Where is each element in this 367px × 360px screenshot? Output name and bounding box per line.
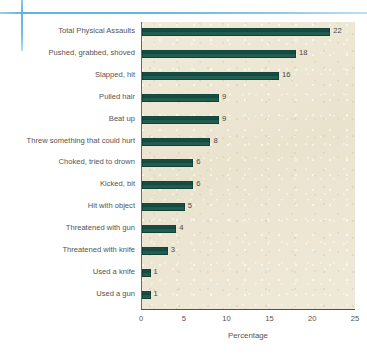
x-axis-line xyxy=(141,309,355,310)
bar-category-label: Hit with object xyxy=(88,201,135,211)
bar xyxy=(142,269,151,277)
bar-row: Total Physical Assaults22 xyxy=(0,22,367,44)
bar-value-label: 5 xyxy=(188,201,192,211)
bar-row: Threw something that could hurt8 xyxy=(0,132,367,154)
x-tick-label: 20 xyxy=(302,314,322,324)
bar xyxy=(142,291,151,299)
bar xyxy=(142,138,210,146)
bar xyxy=(142,72,279,80)
bar-row: Slapped, hit16 xyxy=(0,66,367,88)
bar-value-label: 3 xyxy=(171,245,175,255)
bar-category-label: Total Physical Assaults xyxy=(58,26,135,36)
bar-value-label: 6 xyxy=(196,179,200,189)
bar xyxy=(142,50,296,58)
bar-category-label: Threatened with knife xyxy=(62,245,135,255)
bar-value-label: 22 xyxy=(333,26,341,36)
bar-category-label: Kicked, bit xyxy=(100,179,135,189)
bar-row: Used a gun1 xyxy=(0,285,367,307)
x-tick-label: 10 xyxy=(217,314,237,324)
bar-value-label: 8 xyxy=(213,136,217,146)
bar xyxy=(142,181,193,189)
bar-row: Threatened with knife3 xyxy=(0,241,367,263)
bar xyxy=(142,159,193,167)
x-tick-label: 0 xyxy=(131,314,151,324)
bar xyxy=(142,203,185,211)
x-axis-title: Percentage xyxy=(141,331,355,341)
bar-category-label: Choked, tried to drown xyxy=(59,157,135,167)
bar-value-label: 16 xyxy=(282,70,290,80)
bar-row: Choked, tried to drown6 xyxy=(0,153,367,175)
bar-value-label: 18 xyxy=(299,48,307,58)
bar xyxy=(142,225,176,233)
bar-row: Hit with object5 xyxy=(0,197,367,219)
x-tick-label: 25 xyxy=(345,314,365,324)
bar-value-label: 1 xyxy=(154,267,158,277)
bar-category-label: Pulled hair xyxy=(99,92,135,102)
bar-category-label: Slapped, hit xyxy=(95,70,135,80)
decorative-horizontal-rule xyxy=(0,12,367,14)
bar-category-label: Threw something that could hurt xyxy=(27,136,135,146)
x-tick-label: 15 xyxy=(259,314,279,324)
bar-category-label: Used a knife xyxy=(93,267,135,277)
bar xyxy=(142,116,219,124)
bar-row: Pulled hair9 xyxy=(0,88,367,110)
bar-value-label: 9 xyxy=(222,114,226,124)
bar-category-label: Beat up xyxy=(109,114,135,124)
bar-row: Used a knife1 xyxy=(0,263,367,285)
bar-category-label: Used a gun xyxy=(96,289,135,299)
x-tick-label: 5 xyxy=(174,314,194,324)
bar xyxy=(142,94,219,102)
bar-category-label: Pushed, grabbed, shoved xyxy=(48,48,135,58)
bar-category-label: Threatened with gun xyxy=(66,223,135,233)
bar-value-label: 1 xyxy=(154,289,158,299)
bar xyxy=(142,28,330,36)
bar-value-label: 9 xyxy=(222,92,226,102)
bar xyxy=(142,247,168,255)
bar-row: Pushed, grabbed, shoved18 xyxy=(0,44,367,66)
bar-value-label: 4 xyxy=(179,223,183,233)
bar-row: Beat up9 xyxy=(0,110,367,132)
bar-value-label: 6 xyxy=(196,157,200,167)
bar-row: Kicked, bit6 xyxy=(0,175,367,197)
bar-chart: Total Physical Assaults22Pushed, grabbed… xyxy=(0,18,367,360)
bar-row: Threatened with gun4 xyxy=(0,219,367,241)
